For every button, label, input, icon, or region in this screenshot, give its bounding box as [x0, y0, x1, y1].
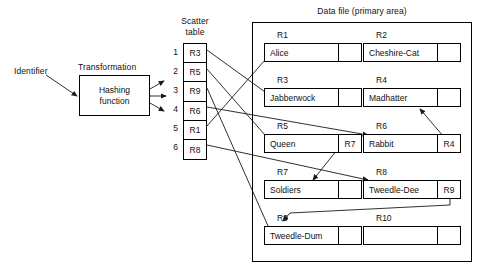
record-r6-pointer: R4 [438, 135, 460, 152]
record-tag-r1: R1 [277, 30, 288, 40]
record-tag-r6: R6 [376, 121, 387, 131]
scatter-index-2: 2 [171, 66, 180, 76]
record-r10-pointer [438, 227, 460, 244]
record-r10[interactable] [363, 226, 461, 245]
record-r8[interactable]: Tweedle-Dee R9 [363, 180, 461, 199]
record-r9[interactable]: Tweedle-Dum [264, 226, 362, 245]
record-tag-r3: R3 [277, 75, 288, 85]
scatter-table: R3 R5 R9 R6 R1 R8 [183, 43, 207, 160]
record-r1-name: Alice [265, 44, 339, 61]
scatter-cell-5[interactable]: R1 [184, 121, 206, 140]
hash-box-line2: function [100, 96, 130, 107]
record-r8-name: Tweedle-Dee [364, 181, 438, 198]
scatter-index-1: 1 [171, 47, 180, 57]
record-row-1: Alice Cheshire-Cat [264, 43, 461, 62]
record-r7-name: Soldiers [265, 181, 339, 198]
record-tag-r2: R2 [376, 30, 387, 40]
record-r5[interactable]: Queen R7 [264, 134, 362, 153]
scatter-index-3: 3 [171, 85, 180, 95]
diagram-canvas: Identifier Transformation Hashing functi… [0, 0, 493, 278]
record-tag-r8: R8 [376, 167, 387, 177]
record-r3-name: Jabberwock [265, 89, 339, 106]
record-r7[interactable]: Soldiers [264, 180, 362, 199]
record-r6[interactable]: Rabbit R4 [363, 134, 461, 153]
record-r6-name: Rabbit [364, 135, 438, 152]
record-r8-pointer: R9 [438, 181, 460, 198]
scatter-index-6: 6 [171, 142, 180, 152]
record-r1[interactable]: Alice [264, 43, 362, 62]
record-row-3: Queen R7 Rabbit R4 [264, 134, 461, 153]
scatter-table-title-line2: table [171, 27, 219, 37]
record-tag-r4: R4 [376, 75, 387, 85]
scatter-index-4: 4 [171, 104, 180, 114]
scatter-table-title-line1: Scatter [171, 16, 219, 26]
arrow-hash-out-upper [150, 81, 164, 89]
record-r10-name [364, 227, 438, 244]
record-r5-pointer: R7 [339, 135, 361, 152]
record-row-4: Soldiers Tweedle-Dee R9 [264, 180, 461, 199]
record-row-2: Jabberwock Madhatter [264, 88, 461, 107]
record-tag-r5: R5 [277, 121, 288, 131]
record-tag-r9: R9 [277, 213, 288, 223]
arrow-hash-out-lower [150, 103, 164, 111]
hashing-function-box: Hashing function [79, 75, 150, 116]
record-tag-r7: R7 [277, 167, 288, 177]
scatter-cell-1[interactable]: R3 [184, 44, 206, 63]
hash-box-line1: Hashing [99, 85, 130, 96]
scatter-cell-4[interactable]: R6 [184, 102, 206, 121]
scatter-cell-6[interactable]: R8 [184, 140, 206, 159]
transformation-label: Transformation [78, 62, 136, 72]
record-r9-name: Tweedle-Dum [265, 227, 339, 244]
record-r2-name: Cheshire-Cat [364, 44, 438, 61]
scatter-index-5: 5 [171, 123, 180, 133]
record-r3[interactable]: Jabberwock [264, 88, 362, 107]
record-r7-pointer [339, 181, 361, 198]
record-r4-pointer [438, 89, 460, 106]
record-row-5: Tweedle-Dum [264, 226, 461, 245]
arrow-identifier-to-hash [46, 75, 77, 96]
record-r2-pointer [438, 44, 460, 61]
record-r9-pointer [339, 227, 361, 244]
data-file-title: Data file (primary area) [252, 6, 472, 16]
record-r3-pointer [339, 89, 361, 106]
record-r4-name: Madhatter [364, 89, 438, 106]
record-r4[interactable]: Madhatter [363, 88, 461, 107]
scatter-cell-2[interactable]: R5 [184, 63, 206, 82]
record-r1-pointer [339, 44, 361, 61]
scatter-cell-3[interactable]: R9 [184, 82, 206, 101]
record-tag-r10: R10 [376, 213, 392, 223]
record-r2[interactable]: Cheshire-Cat [363, 43, 461, 62]
identifier-label: Identifier [14, 66, 48, 76]
record-r5-name: Queen [265, 135, 339, 152]
